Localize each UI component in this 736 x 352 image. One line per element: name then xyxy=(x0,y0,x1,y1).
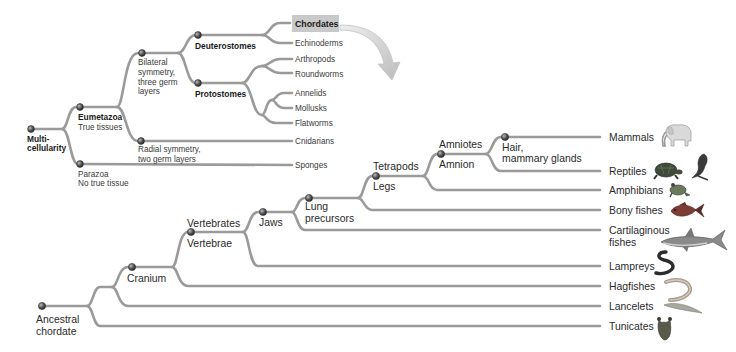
taxon-amphibians: Amphibians xyxy=(609,185,663,196)
label-protostomes: Protostomes xyxy=(195,89,247,99)
taxon-annelids: Annelids xyxy=(295,89,326,98)
taxon-tunicates: Tunicates xyxy=(609,321,654,332)
hagfish-icon xyxy=(666,280,690,300)
node-bilateral xyxy=(139,50,146,57)
lancelet-icon xyxy=(664,303,702,313)
taxon-roundworms: Roundworms xyxy=(295,70,343,79)
bony-fish-icon xyxy=(671,202,704,217)
taxon-echinoderms: Echinoderms xyxy=(295,39,343,48)
lamprey-icon xyxy=(656,252,673,274)
node-protostomes xyxy=(195,80,202,87)
taxon-chordates: Chordates xyxy=(295,19,339,29)
node-tetrapods xyxy=(372,172,379,179)
label-ancestral-chordate: Ancestral chordate xyxy=(36,314,82,337)
node-jaws xyxy=(259,208,266,215)
taxon-sponges: Sponges xyxy=(295,161,327,170)
label-vertebrates: Vertebrates Vertebrae xyxy=(187,218,243,249)
label-radial: Radial symmetry, two germ layers xyxy=(138,145,203,164)
phylogenetic-tree-diagram: Multi- cellularity Eumetazoa True tissue… xyxy=(0,0,736,352)
node-ancestral-chordate xyxy=(38,302,45,309)
taxon-lampreys: Lampreys xyxy=(609,261,655,272)
taxon-flatworms: Flatworms xyxy=(295,119,333,128)
label-lung-precursors: Lung precursors xyxy=(305,201,354,224)
lizard-icon xyxy=(692,154,708,180)
node-radial xyxy=(138,138,145,145)
node-hair xyxy=(501,133,508,140)
node-amniotes xyxy=(437,150,444,157)
label-cranium: Cranium xyxy=(127,273,166,284)
taxon-lancelets: Lancelets xyxy=(609,301,653,312)
taxon-mollusks: Mollusks xyxy=(295,104,327,113)
taxon-cartilaginous-fishes: Cartilaginous fishes xyxy=(609,225,673,248)
node-multicellularity xyxy=(28,126,35,133)
tunicate-icon xyxy=(657,317,672,340)
node-eumetazoa xyxy=(77,104,84,111)
label-jaws: Jaws xyxy=(259,217,283,228)
node-vertebrates xyxy=(187,228,194,235)
node-cranium xyxy=(128,263,135,270)
node-parazoa xyxy=(77,161,84,168)
label-deuterostomes: Deuterostomes xyxy=(195,41,256,51)
label-bilateral: Bilateral symmetry, three germ layers xyxy=(138,58,180,96)
taxon-hagfishes: Hagfishes xyxy=(609,281,655,292)
taxon-cnidarians: Cnidarians xyxy=(295,137,334,146)
turtle-icon xyxy=(654,163,683,179)
taxon-bony-fishes: Bony fishes xyxy=(609,205,663,216)
taxon-arthropods: Arthropods xyxy=(295,55,335,64)
label-multicellularity: Multi- cellularity xyxy=(27,134,66,153)
elephant-icon xyxy=(663,125,691,146)
node-deuterostomes xyxy=(195,32,202,39)
label-parazoa: Parazoa No true tissue xyxy=(78,170,129,188)
taxon-mammals: Mammals xyxy=(609,132,654,143)
label-hair-mammary-glands: Hair, mammary glands xyxy=(502,142,582,164)
frog-icon xyxy=(670,183,690,197)
curved-arrow-icon xyxy=(340,25,400,80)
taxon-reptiles: Reptiles xyxy=(609,166,647,177)
